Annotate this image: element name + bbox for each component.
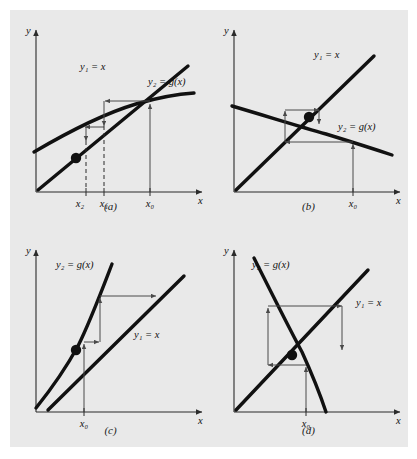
panel-d: y x y₂ = g(x) y₁ = x x₀	[206, 228, 411, 453]
g-function-label: y₂ = g(x)	[147, 76, 186, 88]
g-function-label: y₂ = g(x)	[251, 259, 290, 271]
identity-line-label: y₁ = x	[355, 297, 382, 308]
y-axis-label: y	[25, 245, 31, 256]
y-axis-label: y	[25, 25, 31, 36]
g-function-label: y₂ = g(x)	[55, 259, 94, 271]
g-function-curve	[34, 93, 194, 152]
panel-caption-d: (d)	[206, 424, 411, 436]
panel-caption-b: (b)	[206, 200, 411, 212]
panel-caption-a: (a)	[8, 200, 213, 212]
identity-line-label: y₁ = x	[313, 49, 340, 60]
g-function-curve	[254, 258, 326, 412]
y-axis-label: y	[223, 25, 229, 36]
y-axis-label: y	[223, 245, 229, 256]
fixed-point-marker	[304, 112, 314, 122]
fixed-point-marker	[71, 345, 81, 355]
identity-line-label: y₁ = x	[79, 61, 106, 72]
fixed-point-marker	[287, 350, 297, 360]
identity-line-curve	[236, 270, 368, 410]
g-function-label: y₂ = g(x)	[337, 121, 376, 133]
identity-line-label: y₁ = x	[133, 329, 160, 340]
panel-caption-c: (c)	[8, 424, 213, 436]
fixed-point-marker	[71, 153, 81, 163]
figure-root: y x y₁ = x y₂ = g(x) x₂ x₁ x₀ (a)	[0, 0, 417, 459]
panel-c: y x y₂ = g(x) y₁ = x x₀	[8, 228, 213, 453]
